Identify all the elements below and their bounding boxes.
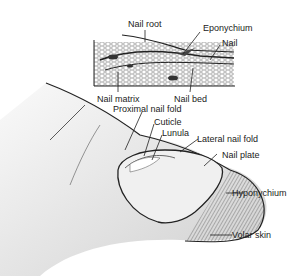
label-cuticle: Cuticle [154, 117, 182, 127]
label-nail-matrix: Nail matrix [97, 94, 140, 104]
nail-anatomy-diagram: Nail root Eponychium Nail Nail matrix Na… [0, 0, 303, 276]
label-nail-root: Nail root [128, 19, 162, 29]
label-volar-skin: Volar skin [232, 230, 271, 240]
label-lunula: Lunula [162, 128, 189, 138]
label-hyponychium: Hyponychium [232, 188, 287, 198]
label-eponychium: Eponychium [203, 23, 253, 33]
label-proximal-nail-fold: Proximal nail fold [113, 104, 182, 114]
label-nail-bed: Nail bed [174, 94, 207, 104]
label-lateral-nail-fold: Lateral nail fold [197, 134, 258, 144]
label-nail-plate: Nail plate [222, 150, 260, 160]
cross-section [94, 35, 235, 86]
label-nail: Nail [222, 38, 238, 48]
